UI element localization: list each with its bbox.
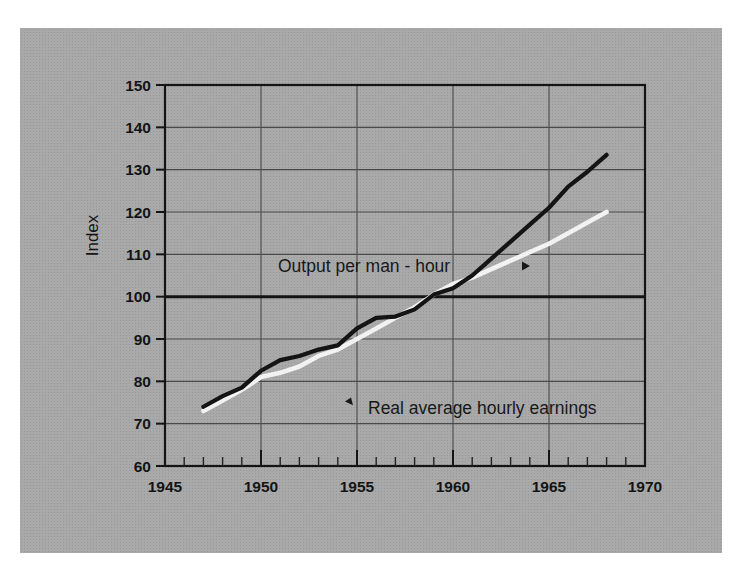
x-tick-labels: 194519501955196019651970 — [148, 478, 662, 495]
series-line-output-per-man-hour — [203, 155, 606, 407]
y-tick-label-90: 90 — [134, 331, 151, 348]
y-tick-label-110: 110 — [126, 246, 151, 263]
y-tick-label-60: 60 — [134, 458, 151, 475]
x-tick-label-1950: 1950 — [244, 478, 278, 495]
y-tick-label-120: 120 — [125, 204, 151, 221]
y-axis-title: Index — [83, 214, 102, 256]
x-tick-label-1955: 1955 — [340, 478, 375, 495]
line-chart: 60708090100110120130140150 1945195019551… — [20, 28, 722, 553]
earnings-annotation-label: Real average hourly earnings — [368, 398, 597, 418]
x-minor-ticks — [184, 457, 626, 466]
x-tick-label-1960: 1960 — [436, 478, 470, 495]
y-tick-label-80: 80 — [134, 373, 151, 390]
output-arrow-right-icon — [509, 262, 530, 271]
earnings-arrow-left-icon — [345, 398, 366, 408]
x-tick-label-1945: 1945 — [148, 478, 183, 495]
y-tick-label-150: 150 — [125, 77, 151, 94]
x-tick-label-1965: 1965 — [532, 478, 567, 495]
y-tick-label-130: 130 — [125, 161, 151, 178]
y-tick-label-140: 140 — [125, 119, 151, 136]
output-annotation-label: Output per man - hour — [278, 256, 450, 276]
earnings-annotation: Real average hourly earnings — [345, 398, 597, 418]
x-tick-label-1970: 1970 — [628, 478, 662, 495]
y-major-ticks — [156, 85, 165, 466]
figure-panel: 60708090100110120130140150 1945195019551… — [20, 28, 722, 553]
x-major-ticks — [165, 450, 645, 466]
y-tick-label-70: 70 — [134, 415, 151, 432]
y-tick-labels: 60708090100110120130140150 — [125, 77, 151, 475]
series-layer — [203, 155, 606, 411]
y-tick-label-100: 100 — [125, 288, 151, 305]
